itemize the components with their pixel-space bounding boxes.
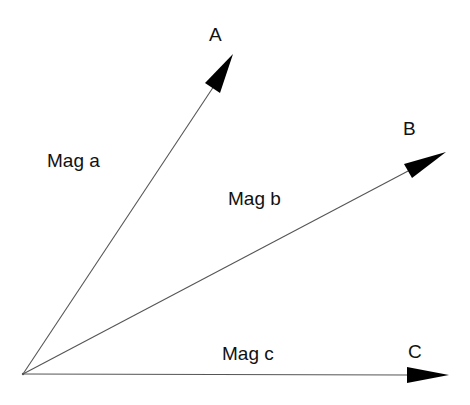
vector-b-magnitude-label: Mag b <box>228 188 281 209</box>
vector-c-shaft <box>23 374 408 375</box>
vector-c-magnitude-label: Mag c <box>222 343 274 364</box>
vector-c-endpoint-label: C <box>408 341 422 362</box>
origin-point <box>22 373 24 375</box>
vector-b-arrowhead-icon <box>404 152 446 178</box>
vector-a-endpoint-label: A <box>209 24 222 45</box>
vector-a-arrowhead-icon <box>205 54 233 93</box>
vector-a: A Mag a <box>23 24 233 374</box>
vector-b-shaft <box>23 170 410 374</box>
vector-a-magnitude-label: Mag a <box>47 150 100 171</box>
vector-diagram: A Mag a B Mag b C Mag c <box>0 0 470 405</box>
vector-a-shaft <box>23 86 214 374</box>
vector-c: C Mag c <box>23 341 449 383</box>
vector-b-endpoint-label: B <box>403 118 416 139</box>
vector-c-arrowhead-icon <box>407 367 449 383</box>
